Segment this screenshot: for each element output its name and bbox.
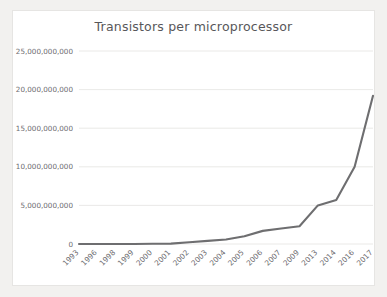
x-axis-tick-label: 1993 [61, 248, 81, 268]
x-axis-tick-label: 1996 [79, 248, 99, 268]
y-axis-tick-label: 0 [68, 240, 73, 249]
y-axis-tick-label: 10,000,000,000 [16, 162, 74, 171]
x-axis-tick-label: 1998 [97, 248, 117, 268]
data-series-line [79, 96, 373, 244]
x-axis-tick-label: 2013 [300, 248, 320, 268]
x-axis-tick-label: 1999 [116, 248, 136, 268]
y-axis-tick-label: 5,000,000,000 [20, 201, 73, 210]
x-axis-tick-label: 2000 [134, 248, 154, 268]
x-axis-tick-label: 2016 [336, 248, 356, 268]
chart-card: Transistors per microprocessor 05,000,00… [12, 10, 375, 286]
y-axis-tick-label: 20,000,000,000 [16, 85, 74, 94]
x-axis-tick-label: 2007 [263, 248, 283, 268]
x-axis-tick-label: 2006 [244, 248, 264, 268]
y-axis-tick-label: 15,000,000,000 [16, 124, 74, 133]
x-axis-tick-label: 2009 [281, 248, 301, 268]
x-axis-tick-label: 2003 [189, 248, 209, 268]
x-axis-tick-label: 2004 [208, 248, 228, 268]
x-axis-tick-label: 2002 [171, 248, 191, 268]
x-axis-tick-label: 2014 [318, 248, 338, 268]
x-axis-tick-label: 2001 [153, 248, 173, 268]
x-axis-tick-label: 2017 [355, 248, 375, 268]
y-axis-tick-label: 25,000,000,000 [16, 47, 74, 56]
line-chart-plot: 05,000,000,00010,000,000,00015,000,000,0… [13, 11, 376, 287]
x-axis-tick-label: 2005 [226, 248, 246, 268]
